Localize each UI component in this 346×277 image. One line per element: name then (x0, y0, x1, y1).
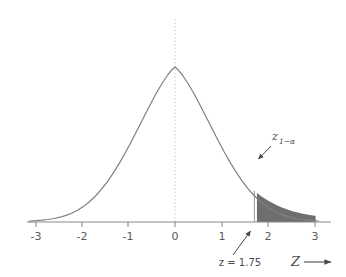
tick-label-neg3: -3 (31, 230, 42, 243)
critical-value-equation-label: z = 1.75 (219, 257, 261, 268)
normal-curve (29, 67, 318, 221)
x-axis-name-label: Z (290, 254, 301, 269)
normal-distribution-chart: -3 -2 -1 0 1 2 3 z 1−α z = 1.75 Z (0, 0, 346, 277)
critical-value-symbol-arrow (259, 146, 272, 159)
shaded-tail-area (257, 193, 316, 222)
tick-label-neg1: -1 (123, 230, 134, 243)
tick-label-2: 2 (265, 230, 272, 243)
x-axis-ticks (36, 222, 315, 227)
chart-canvas: -3 -2 -1 0 1 2 3 z 1−α z = 1.75 Z (0, 0, 346, 277)
tick-label-1: 1 (219, 230, 226, 243)
critical-value-symbol-base: z (271, 130, 278, 143)
tick-label-neg2: -2 (77, 230, 88, 243)
tick-label-3: 3 (312, 230, 319, 243)
critical-value-equation-arrow (233, 231, 251, 255)
critical-value-symbol-subscript: 1−α (279, 137, 295, 146)
tick-label-0: 0 (172, 230, 179, 243)
